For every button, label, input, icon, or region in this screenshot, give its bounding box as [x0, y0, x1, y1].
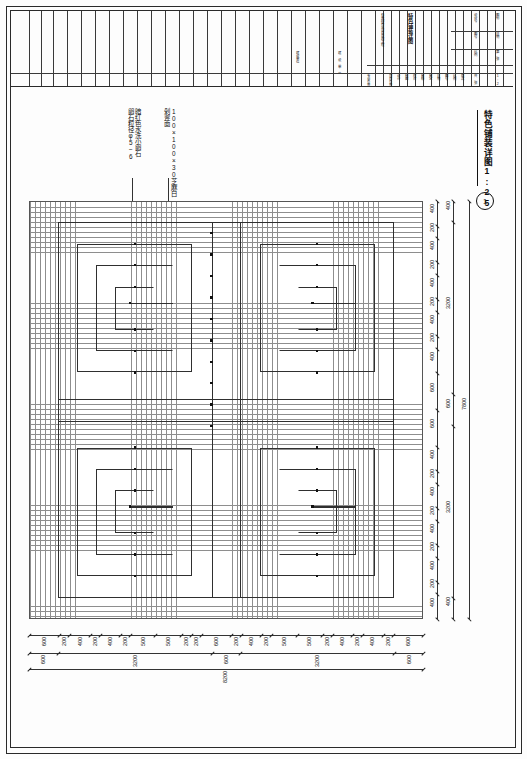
centre-node: [210, 318, 212, 320]
field-centre-vertical: [212, 222, 213, 597]
title-block-divider: [53, 11, 54, 86]
title-block-design-unit: 建设单位: [291, 51, 303, 73]
bottom-dim-value-9: 200: [193, 637, 199, 646]
title-block-divider: [221, 11, 222, 86]
right-dim-mid-value-2: 600: [445, 399, 451, 408]
right-dim-tick: [435, 556, 439, 560]
meander-node: [134, 350, 136, 352]
meander-node: [134, 328, 136, 330]
title-block: 石墨园商业项目景观工程特色铺装详图建设单位建 设 单 位专业负责人项目负责人设计…: [11, 11, 513, 87]
drawing-sheet: 石墨园商业项目景观工程特色铺装详图建设单位建 设 单 位专业负责人项目负责人设计…: [0, 0, 527, 759]
meander-node: [134, 532, 136, 534]
right-dim-value-3: 200: [429, 260, 435, 269]
title-block-divider: [109, 11, 110, 86]
title-block-right-cell-4: 比例: [469, 50, 481, 64]
centre-node: [210, 425, 212, 427]
right-dim-value-14: 200: [429, 506, 435, 515]
title-block-divider: [165, 11, 166, 86]
title-block-divider: [81, 11, 82, 86]
right-dim-value-16: 200: [429, 542, 435, 551]
meander-node: [316, 264, 318, 266]
right-dim-mid-value-4: 400: [445, 597, 451, 606]
title-block-divider: [263, 11, 264, 86]
title-block-project-name: 石墨园商业项目景观工程: [375, 13, 389, 71]
right-dim-mid-value-3: 3200: [445, 501, 451, 513]
meander-node: [134, 553, 136, 555]
bottom-dim-value-2: 400: [77, 637, 83, 646]
title-block-right-cell-6: 共 张: [469, 74, 481, 86]
right-dim-value-9: 600: [429, 383, 435, 392]
bottom-dim-mid-value-0: 600: [40, 655, 46, 664]
title-block-divider: [29, 11, 30, 86]
meander-ring-3-2: [115, 490, 153, 533]
meander-node: [134, 489, 136, 491]
bottom-dim-value-10: 600: [213, 637, 219, 646]
meander-node: [316, 532, 318, 534]
right-dim-mid-value-0: 400: [445, 201, 451, 210]
title-block-field-10: 版次: [457, 74, 466, 86]
title-block-divider: [207, 11, 208, 86]
meander-node: [134, 264, 136, 266]
meander-tail-2: [312, 303, 355, 304]
meander-centre-node: [311, 302, 313, 304]
right-dim-value-0: 400: [429, 204, 435, 213]
right-dim-value-2: 400: [429, 241, 435, 250]
title-block-divider: [179, 11, 180, 86]
bottom-dim-mid-value-2: 600: [223, 655, 229, 664]
drawing-body: 暗红色水洗小卵石卵石粒径φ5~6 100×100×30芝麻白剁斧面 特色铺装详图…: [11, 88, 513, 746]
title-block-divider: [151, 11, 152, 86]
right-dim-value-13: 400: [429, 487, 435, 496]
title-block-right-cell-0: 设计号: [469, 13, 481, 29]
bottom-dim-total-tick: [421, 667, 425, 671]
title-block-divider: [137, 11, 138, 86]
meander-node: [316, 468, 318, 470]
right-dim-total-tick: [467, 617, 471, 621]
meander-centre-node: [311, 505, 313, 507]
title-block-divider: [291, 11, 292, 86]
centre-node: [210, 232, 212, 234]
meander-ring-4-2: [298, 490, 336, 533]
field-centre-vertical-2: [240, 222, 241, 597]
meander-node: [316, 350, 318, 352]
title-block-right-cell-3: 日期: [491, 32, 503, 48]
bottom-dim-value-16: 200: [324, 637, 330, 646]
title-block-divider: [193, 11, 194, 86]
bottom-dim-total-value: 8200: [222, 671, 228, 683]
meander-node: [134, 286, 136, 288]
right-dim-total-value: 7800: [461, 398, 467, 410]
title-block-divider: [277, 11, 278, 86]
title-block-right-cell-5: 第 张: [491, 50, 503, 64]
annotation-granite-tile-label: 100×100×30芝麻白剁斧面: [163, 108, 177, 196]
right-dim-value-19: 400: [429, 598, 435, 607]
meander-centre-node: [129, 302, 131, 304]
meander-node: [134, 575, 136, 577]
title-block-drawing-name: 特色铺装详图: [403, 13, 417, 71]
meander-node: [316, 575, 318, 577]
field-centre-horizontal: [58, 399, 394, 400]
bottom-dim-value-20: 200: [385, 637, 391, 646]
title-block-divider: [347, 11, 348, 86]
right-dim-value-17: 400: [429, 561, 435, 570]
meander-node: [316, 489, 318, 491]
bottom-dim-value-17: 400: [339, 637, 345, 646]
title-block-divider: [67, 11, 68, 86]
bottom-dim-value-4: 400: [107, 637, 113, 646]
annotation-stone-pebble-label: 暗红色水洗小卵石卵石粒径φ5~6: [127, 108, 141, 160]
meander-node: [316, 328, 318, 330]
field-centre-horizontal-2: [58, 421, 394, 422]
bottom-dim-mid-tick: [421, 651, 425, 655]
title-block-divider: [305, 11, 306, 86]
centre-node: [210, 253, 212, 255]
centre-node: [210, 403, 212, 405]
bottom-dim-mid-value-1: 3200: [132, 655, 138, 667]
bottom-dim-mid-tick: [210, 651, 214, 655]
bottom-dim-value-3: 200: [92, 637, 98, 646]
meander-node: [134, 371, 136, 373]
title-block-divider: [235, 11, 236, 86]
bottom-dim-value-8: 200: [183, 637, 189, 646]
bottom-dim-value-0: 600: [41, 637, 47, 646]
meander-node: [316, 286, 318, 288]
bottom-dim-axis-3: [29, 669, 423, 670]
centre-node: [210, 275, 212, 277]
right-dim-axis-2: [453, 201, 454, 619]
